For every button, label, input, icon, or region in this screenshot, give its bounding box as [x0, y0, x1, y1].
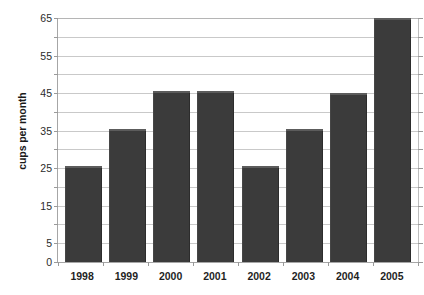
x-tick-label-2002: 2002 — [237, 268, 281, 290]
y-tick-label-45: 45 — [40, 87, 52, 99]
y-tick-mark-right-30 — [418, 149, 423, 150]
x-tick-label-2004: 2004 — [326, 268, 370, 290]
x-tick-label-2001: 2001 — [193, 268, 237, 290]
bar-slot-2005 — [371, 18, 415, 262]
x-axis-tick-labels: 19981999200020012002200320042005 — [57, 268, 417, 290]
y-tick-mark-right-60 — [418, 37, 423, 38]
bar-2002[interactable] — [242, 166, 279, 262]
bar-slot-2001 — [194, 18, 238, 262]
x-tick-label-1999: 1999 — [104, 268, 148, 290]
bar-2004[interactable] — [330, 93, 367, 262]
bar-slot-1999 — [105, 18, 149, 262]
y-tick-mark-right-45 — [418, 93, 423, 94]
bar-1999[interactable] — [109, 129, 146, 262]
x-tick-mark-1 — [103, 262, 104, 266]
y-tick-label-55: 55 — [40, 50, 52, 62]
x-tick-mark-0 — [58, 262, 59, 266]
y-tick-mark-right-35 — [418, 131, 423, 132]
y-tick-mark-right-50 — [418, 74, 423, 75]
y-tick-mark-right-55 — [418, 56, 423, 57]
bar-slot-2000 — [150, 18, 194, 262]
y-tick-mark-right-25 — [418, 168, 423, 169]
x-tick-label-2003: 2003 — [281, 268, 325, 290]
y-tick-mark-right-10 — [418, 224, 423, 225]
y-tick-mark-right-15 — [418, 206, 423, 207]
x-tick-mark-6 — [328, 262, 329, 266]
x-tick-label-2005: 2005 — [370, 268, 414, 290]
y-tick-mark-right-20 — [418, 187, 423, 188]
plot-area — [57, 18, 418, 263]
y-axis-title-label: cups per month — [16, 92, 28, 169]
x-tick-mark-2 — [148, 262, 149, 266]
bar-2000[interactable] — [153, 91, 190, 262]
bar-slot-2004 — [327, 18, 371, 262]
bar-chart: cups per month 05152535455565 1998199920… — [0, 0, 424, 295]
y-tick-label-25: 25 — [40, 162, 52, 174]
x-tick-mark-5 — [283, 262, 284, 266]
x-tick-mark-4 — [238, 262, 239, 266]
bar-1998[interactable] — [65, 166, 102, 262]
bar-2001[interactable] — [197, 91, 234, 262]
x-tick-mark-3 — [193, 262, 194, 266]
bar-2003[interactable] — [286, 129, 323, 262]
bar-slot-1998 — [61, 18, 105, 262]
y-tick-mark-right-5 — [418, 243, 423, 244]
y-tick-mark-right-65 — [418, 18, 423, 19]
y-tick-label-5: 5 — [46, 237, 52, 249]
x-tick-label-2000: 2000 — [149, 268, 193, 290]
y-tick-label-0: 0 — [46, 256, 52, 268]
x-tick-mark-7 — [373, 262, 374, 266]
bars-container — [58, 18, 418, 262]
y-tick-label-15: 15 — [40, 200, 52, 212]
y-axis-tick-labels: 05152535455565 — [30, 0, 52, 295]
bar-2005[interactable] — [374, 18, 411, 262]
x-tick-mark-8 — [418, 262, 419, 266]
y-tick-label-35: 35 — [40, 125, 52, 137]
y-tick-label-65: 65 — [40, 12, 52, 24]
y-tick-mark-right-40 — [418, 112, 423, 113]
bar-slot-2003 — [282, 18, 326, 262]
bar-slot-2002 — [238, 18, 282, 262]
x-tick-label-1998: 1998 — [60, 268, 104, 290]
